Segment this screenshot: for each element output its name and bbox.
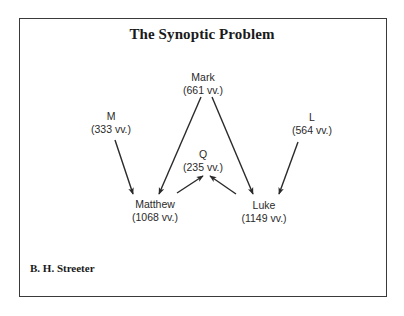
node-l-name: L [267,111,357,124]
node-l: L (564 vv.) [267,111,357,137]
node-m: M (333 vv.) [66,110,156,136]
node-q-name: Q [158,148,248,161]
diagram-canvas: The Synoptic Problem Mark (661 vv.) M (3… [0,0,404,316]
node-q-verses: (235 vv.) [158,161,248,174]
node-mark-name: Mark [158,71,248,84]
author-credit: B. H. Streeter [30,262,95,274]
node-m-name: M [66,110,156,123]
edge-matthew-to-q [177,176,203,193]
edge-luke-to-q [210,176,236,194]
node-matthew: Matthew (1068 vv.) [110,198,200,224]
node-mark: Mark (661 vv.) [158,71,248,97]
edge-l-to-luke [279,142,298,194]
node-luke-name: Luke [219,199,309,212]
node-l-verses: (564 vv.) [267,124,357,137]
edge-m-to-matthew [115,140,133,194]
node-mark-verses: (661 vv.) [158,84,248,97]
edge-mark-to-matthew [159,97,201,194]
node-q: Q (235 vv.) [158,148,248,174]
node-matthew-name: Matthew [110,198,200,211]
node-luke: Luke (1149 vv.) [219,199,309,225]
node-luke-verses: (1149 vv.) [219,212,309,225]
node-m-verses: (333 vv.) [66,123,156,136]
edge-mark-to-luke [212,97,253,194]
node-matthew-verses: (1068 vv.) [110,211,200,224]
